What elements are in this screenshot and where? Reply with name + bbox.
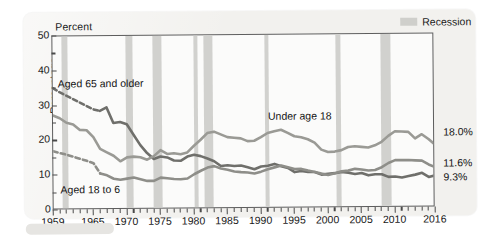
x-tick-label: 1980: [182, 214, 205, 226]
x-tick-minor: [368, 207, 369, 211]
x-tick-label: 1975: [148, 215, 171, 227]
x-tick-minor: [408, 207, 409, 211]
x-tick-minor: [73, 209, 74, 213]
y-tick-mark-minor: [52, 123, 56, 124]
y-tick-label: 50: [23, 29, 49, 41]
caption-chip: [26, 223, 114, 235]
y-tick-mark: [52, 105, 57, 106]
x-tick-minor: [348, 207, 349, 211]
x-tick-minor: [401, 207, 402, 211]
x-tick-minor: [214, 208, 215, 212]
x-tick-minor: [354, 207, 355, 211]
x-tick-minor: [59, 209, 60, 213]
x-tick-minor: [100, 209, 101, 213]
x-tick-label: 1970: [115, 215, 138, 227]
end-value-aged1864: 11.6%: [443, 156, 472, 168]
x-tick-label: 2005: [349, 213, 372, 225]
y-tick-mark-minor: [52, 88, 56, 89]
x-tick-label: 1985: [215, 214, 238, 226]
y-tick-label: 20: [24, 133, 50, 145]
x-tick-minor: [106, 209, 107, 213]
x-tick-minor: [428, 207, 429, 211]
y-tick-mark: [52, 70, 57, 71]
x-tick-minor: [341, 207, 342, 211]
x-tick-minor: [167, 209, 168, 213]
y-tick-mark: [52, 175, 57, 176]
x-tick-minor: [247, 208, 248, 212]
x-tick-minor: [274, 208, 275, 212]
end-value-under18: 18.0%: [443, 125, 473, 137]
x-tick-minor: [334, 207, 335, 211]
x-tick-label: 1990: [249, 214, 272, 226]
y-tick-label: 10: [24, 168, 50, 180]
series-path: [100, 160, 434, 181]
x-tick-minor: [173, 209, 174, 213]
x-tick-minor: [140, 209, 141, 213]
series-label-aged65: Aged 65 and older: [58, 77, 144, 90]
x-tick-minor: [287, 208, 288, 212]
legend: Recession: [400, 15, 471, 28]
x-tick-label: 1995: [282, 214, 305, 226]
series-path: [53, 151, 100, 174]
x-tick-label: 2016: [423, 212, 446, 224]
x-tick-minor: [421, 207, 422, 211]
x-tick-minor: [180, 209, 181, 213]
y-tick-mark: [52, 140, 57, 141]
x-tick-minor: [200, 208, 201, 212]
x-tick-minor: [415, 207, 416, 211]
y-tick-mark-minor: [51, 53, 55, 54]
y-tick-marks: [0, 0, 493, 2]
chart-figure: Percent Percentage Recession 01020304050…: [0, 0, 494, 240]
series-path: [53, 113, 435, 162]
y-tick-label: 40: [24, 63, 50, 75]
x-tick-minor: [254, 208, 255, 212]
series-label-under18: Under age 18: [268, 109, 332, 121]
x-tick-minor: [374, 207, 375, 211]
y-tick-mark-minor: [52, 157, 56, 158]
y-tick-label: 30: [24, 98, 50, 110]
y-tick-labels: 01020304050: [17, 36, 50, 210]
y-tick-mark: [51, 35, 56, 36]
x-tick-minor: [314, 207, 315, 211]
x-tick-minor: [120, 209, 121, 213]
x-tick-minor: [147, 209, 148, 213]
series-path: [53, 88, 100, 112]
series-label-aged1864: Aged 18 to 6: [60, 183, 120, 195]
x-tick-minor: [79, 209, 80, 213]
x-tick-minor: [307, 208, 308, 212]
x-tick-minor: [301, 208, 302, 212]
x-tick-minor: [240, 208, 241, 212]
x-tick-minor: [234, 208, 235, 212]
x-tick-label: 2010: [383, 213, 406, 225]
percent-caption: Percent: [55, 20, 92, 32]
end-value-aged65: 9.3%: [443, 170, 467, 182]
legend-label-recession: Recession: [422, 15, 471, 27]
x-tick-minor: [133, 209, 134, 213]
x-tick-minor: [86, 209, 87, 213]
x-tick-minor: [388, 207, 389, 211]
x-tick-minor: [267, 208, 268, 212]
figure-page: Percent Percentage Recession 01020304050…: [0, 0, 494, 240]
x-tick-minor: [66, 209, 67, 213]
recession-swatch-icon: [400, 18, 417, 26]
y-tick-label: 0: [25, 203, 51, 215]
x-tick-minor: [113, 209, 114, 213]
x-tick-label: 2000: [316, 213, 339, 225]
x-tick-minor: [153, 209, 154, 213]
x-tick-minor: [321, 207, 322, 211]
x-tick-minor: [220, 208, 221, 212]
x-tick-minor: [187, 208, 188, 212]
x-tick-minor: [281, 208, 282, 212]
x-tick-minor: [207, 208, 208, 212]
x-tick-minor: [381, 207, 382, 211]
y-tick-mark-minor: [53, 192, 57, 193]
